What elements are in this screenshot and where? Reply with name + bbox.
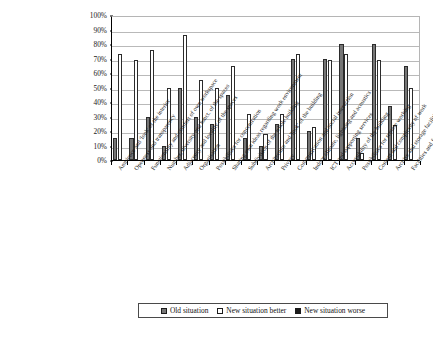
x-axis-tick-mark	[111, 161, 112, 165]
legend-item[interactable]: New situation better	[217, 306, 286, 315]
y-axis-tick-label: 60%	[93, 70, 107, 77]
chart-figure: 100%90%80%70%60%50%40%30%20%10%0% Ambien…	[0, 0, 433, 350]
y-axis-tick-label: 100%	[90, 12, 107, 19]
y-axis-tick-label: 40%	[93, 99, 107, 106]
legend-label: Old situation	[170, 306, 208, 315]
y-axis: 100%90%80%70%60%50%40%30%20%10%0%	[78, 16, 110, 161]
bar-old	[372, 44, 376, 160]
legend-swatch-better	[217, 308, 223, 314]
legend-swatch-worse	[295, 308, 301, 314]
legend-label: New situation better	[226, 306, 286, 315]
y-axis-tick-label: 0%	[97, 157, 107, 164]
y-axis-tick-label: 50%	[93, 85, 107, 92]
y-axis-tick-label: 70%	[93, 56, 107, 63]
bar-group	[112, 17, 128, 160]
y-axis-tick-label: 20%	[93, 128, 107, 135]
y-axis-tick-label: 80%	[93, 41, 107, 48]
legend-item[interactable]: Old situation	[161, 306, 208, 315]
legend-label: New situation worse	[304, 306, 365, 315]
chart-legend: Old situationNew situation betterNew sit…	[138, 303, 388, 318]
legend-item[interactable]: New situation worse	[295, 306, 365, 315]
bar-old	[113, 138, 117, 160]
x-axis-labels: Ambience and 'look' of the interiorOpenn…	[0, 166, 433, 296]
y-axis-tick-label: 10%	[93, 143, 107, 150]
legend-swatch-old	[161, 308, 167, 314]
y-axis-tick-label: 30%	[93, 114, 107, 121]
bar-better	[118, 54, 122, 160]
y-axis-tick-label: 90%	[93, 27, 107, 34]
